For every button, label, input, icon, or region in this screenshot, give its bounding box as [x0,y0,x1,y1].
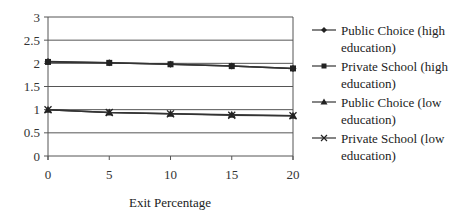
x-tick-label: 0 [45,167,52,182]
y-tick-label: 2.5 [24,33,40,48]
legend-label: Private School (loweducation) [341,130,457,164]
legend-item-public-choice-low: Public Choice (loweducation) [311,94,457,128]
y-tick-label: 1 [34,102,41,117]
legend-item-private-school-high: Private School (higheducation) [311,58,457,92]
x-marker-icon [311,132,337,144]
y-tick-label: 2 [34,56,41,71]
x-tick-label: 5 [106,167,113,182]
legend: Public Choice (higheducation) Private Sc… [311,22,457,166]
square-marker-icon [311,60,337,72]
y-tick-label: 3 [34,10,41,25]
series-line [44,106,297,119]
legend-item-private-school-low: Private School (loweducation) [311,130,457,164]
diamond-marker-icon [311,24,337,36]
y-tick-label: 0.5 [24,125,40,140]
legend-label: Public Choice (loweducation) [341,94,457,128]
legend-label: Public Choice (higheducation) [341,22,457,56]
legend-label: Private School (higheducation) [341,58,457,92]
triangle-marker-icon [311,96,337,108]
gridlines [44,17,293,160]
legend-item-public-choice-high: Public Choice (higheducation) [311,22,457,56]
y-tick-label: 1.5 [24,79,40,94]
x-tick-label: 20 [287,167,300,182]
x-tick-label: 15 [225,167,238,182]
x-tick-label: 10 [164,167,177,182]
y-axis-ticks: 00.511.522.53 [24,10,40,164]
y-tick-label: 0 [34,149,41,164]
x-axis-ticks: 05101520 [45,167,300,182]
x-axis-title: Exit Percentage [129,195,211,210]
